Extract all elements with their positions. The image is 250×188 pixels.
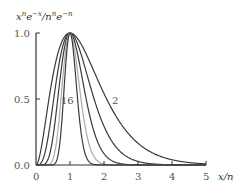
x-tick-label: 0 (33, 171, 39, 182)
chart: 1.0 0.5 0.0 0 1 2 3 4 5 x/n xne−x/nne−n … (0, 0, 250, 188)
y-axis-label: xne−x/nne−n (16, 10, 73, 22)
y-tick-label: 1.0 (14, 28, 30, 39)
y-tick-label: 0.0 (14, 160, 30, 171)
annotation-2: 2 (112, 95, 118, 106)
x-tick-label: 3 (135, 171, 141, 182)
x-tick-label: 5 (203, 171, 209, 182)
x-tick-label: 2 (101, 171, 107, 182)
x-axis-label: x/n (218, 171, 233, 182)
annotation-16: 16 (61, 95, 74, 106)
y-tick-label: 0.5 (14, 94, 30, 105)
x-tick-label: 4 (169, 171, 175, 182)
x-tick-label: 1 (67, 171, 73, 182)
